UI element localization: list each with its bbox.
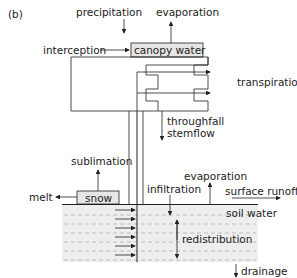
drainage-label: drainage (241, 265, 288, 277)
evaporation-soil-label: evaporation (184, 170, 247, 182)
precipitation-label: precipitation (76, 6, 142, 18)
melt-label: melt (29, 191, 53, 203)
infiltration-label: infiltration (147, 183, 201, 195)
surface-runoff-label: surface runoff (225, 185, 297, 197)
canopy-water-label: canopy water (134, 44, 205, 56)
panel-label: (b) (8, 8, 23, 20)
hydrology-diagram (0, 0, 297, 278)
redistribution-label: redistribution (182, 233, 252, 245)
snow-label: snow (85, 192, 112, 204)
throughfall-label: throughfall (167, 115, 224, 127)
stemflow-label: stemflow (167, 127, 215, 139)
sublimation-label: sublimation (71, 155, 132, 167)
interception-label: interception (43, 44, 106, 56)
transpiration-label: transpiration (237, 76, 297, 88)
soil-water-label: soil water (226, 207, 277, 219)
evaporation-canopy-label: evaporation (156, 6, 219, 18)
tree-outline (71, 57, 208, 111)
